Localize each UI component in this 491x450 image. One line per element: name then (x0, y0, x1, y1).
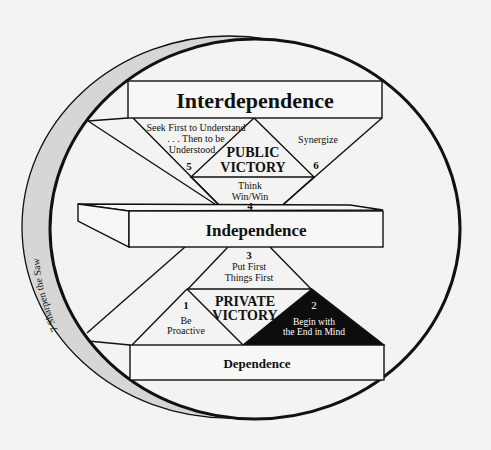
public-victory-line2: VICTORY (220, 160, 285, 175)
independence-label: Independence (205, 221, 307, 240)
habit-6-label: Synergize (298, 134, 338, 145)
habit-4-number: 4 (247, 200, 253, 212)
habit-2-line2: the End in Mind (283, 327, 345, 337)
habit-5-line2: . . . Then to be (167, 133, 225, 144)
habit-5-number: 5 (186, 160, 192, 172)
private-victory-line2: VICTORY (212, 308, 277, 323)
habit-6-number: 6 (313, 159, 319, 171)
habit-3-line1: Put First (232, 261, 266, 272)
habit-3-line2: Things First (225, 272, 274, 283)
public-victory-line1: PUBLIC (227, 145, 280, 160)
private-victory-line1: PRIVATE (215, 294, 275, 309)
habit-5-line3: Understood (169, 144, 216, 155)
habit-2-number: 2 (311, 299, 317, 311)
habit-1-line2: Proactive (167, 325, 205, 336)
dependence-label: Dependence (223, 356, 290, 371)
habit-4-line1: Think (238, 180, 262, 191)
interdependence-label: Interdependence (176, 88, 334, 113)
public-victory: PUBLIC VICTORY (220, 145, 285, 175)
habit-1-number: 1 (183, 299, 189, 311)
private-victory: PRIVATE VICTORY (212, 294, 277, 323)
seven-habits-diagram: Interdependence Independence Dependence … (0, 0, 491, 450)
habit-5-line1: Seek First to Understand (146, 122, 245, 133)
habit-3-number: 3 (246, 249, 252, 261)
dependence-box: Dependence (130, 345, 384, 380)
interdependence-box: Interdependence (128, 81, 382, 118)
habit-2-line1: Begin with (293, 317, 335, 327)
independence-box: Independence (78, 204, 383, 247)
